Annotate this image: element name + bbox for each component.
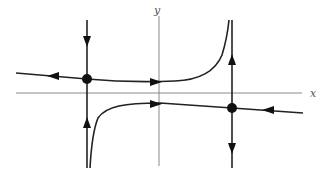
left-saddle-point (82, 74, 92, 84)
arrow-right-icon (150, 100, 162, 108)
arrow-left-icon (262, 106, 274, 114)
arrow-up-icon (228, 54, 236, 65)
arrow-left-icon (47, 72, 59, 80)
arrow-down-icon (228, 143, 236, 154)
arrow-down-icon (83, 36, 91, 47)
phase-portrait-diagram: y x (0, 0, 326, 176)
y-axis-label: y (153, 4, 161, 17)
arrow-up-icon (83, 117, 91, 128)
upper-trajectory (16, 20, 229, 82)
arrow-right-icon (150, 78, 162, 86)
x-axis-label: x (310, 87, 317, 100)
right-saddle-point (227, 103, 237, 113)
